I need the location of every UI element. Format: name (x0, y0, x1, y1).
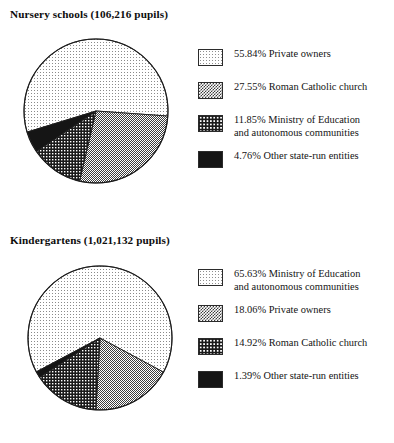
legend-swatch-solid-black-icon (198, 151, 223, 168)
legend-swatch-light-dots-icon (198, 49, 223, 66)
legend-item-private-owners[interactable]: 18.06% Private owners (198, 304, 394, 322)
legend-item-roman-catholic-church[interactable]: 14.92% Roman Catholic church (198, 337, 394, 355)
pie-chart-nursery-schools (22, 33, 182, 193)
legend-label: 11.85% Ministry of Education and autonom… (234, 114, 360, 139)
pie-chart-nursery-svg (22, 33, 182, 193)
legend-swatch-solid-black-icon (198, 371, 223, 388)
legend-swatch-dark-checker-icon (198, 338, 223, 355)
legend-label: 55.84% Private owners (234, 48, 331, 61)
page-title-nursery-schools: Nursery schools (106,216 pupils) (10, 8, 168, 20)
legend-swatch-light-dots-icon (198, 269, 223, 286)
pie-chart-kindergartens-svg (22, 260, 182, 420)
legend-label: 65.63% Ministry of Education and autonom… (234, 268, 360, 293)
page-title-kindergartens: Kindergartens (1,021,132 pupils) (10, 234, 170, 246)
legend-item-other-state-run-entities[interactable]: 1.39% Other state-run entities (198, 370, 394, 388)
legend-label: 18.06% Private owners (234, 304, 331, 317)
legend-item-other-state-run-entities[interactable]: 4.76% Other state-run entities (198, 150, 394, 168)
legend-swatch-medium-checker-icon (198, 82, 223, 99)
legend-label: 1.39% Other state-run entities (234, 370, 359, 383)
legend-nursery-schools: 55.84% Private owners 27.55% Roman Catho… (198, 48, 394, 183)
pie-chart-kindergartens (22, 260, 182, 420)
chart-block-nursery-schools: Nursery schools (106,216 pupils) 55.84% … (0, 0, 394, 225)
legend-item-private-owners[interactable]: 55.84% Private owners (198, 48, 394, 66)
legend-swatch-medium-checker-icon (198, 305, 223, 322)
legend-label: 27.55% Roman Catholic church (234, 81, 367, 94)
legend-item-roman-catholic-church[interactable]: 27.55% Roman Catholic church (198, 81, 394, 99)
legend-label: 14.92% Roman Catholic church (234, 337, 367, 350)
legend-item-ministry-of-education[interactable]: 11.85% Ministry of Education and autonom… (198, 114, 394, 139)
legend-swatch-dark-checker-icon (198, 115, 223, 132)
legend-item-ministry-of-education[interactable]: 65.63% Ministry of Education and autonom… (198, 268, 394, 293)
chart-block-kindergartens: Kindergartens (1,021,132 pupils) 65.63% … (0, 228, 394, 443)
legend-label: 4.76% Other state-run entities (234, 150, 359, 163)
legend-kindergartens: 65.63% Ministry of Education and autonom… (198, 268, 394, 403)
